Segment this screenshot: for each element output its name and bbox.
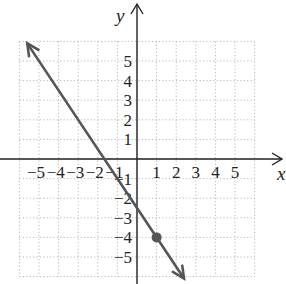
line-series xyxy=(27,43,184,278)
x-axis-label: x xyxy=(276,163,286,184)
x-tick-label: −3 xyxy=(66,163,84,182)
y-tick-label: −3 xyxy=(114,209,132,228)
x-tick-label: −5 xyxy=(27,163,45,182)
y-tick-label: 1 xyxy=(124,130,133,149)
x-tick-label: 4 xyxy=(211,163,220,182)
y-tick-label: −5 xyxy=(114,248,132,267)
x-tick-label: 3 xyxy=(192,163,201,182)
y-tick-label: 3 xyxy=(124,91,133,110)
x-tick-label: 5 xyxy=(231,163,240,182)
x-tick-label: −2 xyxy=(86,163,104,182)
y-tick-label: 2 xyxy=(124,111,133,130)
y-tick-label: 5 xyxy=(124,52,133,71)
plotted-line xyxy=(27,43,184,278)
y-tick-label: −4 xyxy=(114,228,133,247)
y-axis-label: y xyxy=(114,5,125,26)
plotted-point xyxy=(152,232,162,242)
x-tick-label: 2 xyxy=(172,163,181,182)
y-tick-label: 4 xyxy=(124,72,133,91)
coordinate-plane: −5−4−3−2−11234554321−1−2−3−4−5 x y xyxy=(0,0,286,284)
axes xyxy=(0,4,282,284)
x-tick-label: −4 xyxy=(47,163,66,182)
x-tick-label: 1 xyxy=(152,163,161,182)
